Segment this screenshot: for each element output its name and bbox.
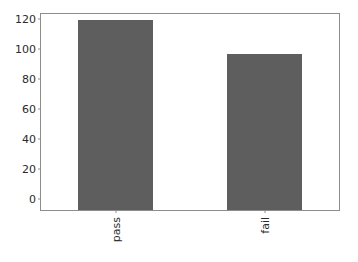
ytick-label: 100: [15, 44, 36, 55]
ytick-mark: [38, 169, 41, 170]
xtick-mark: [264, 210, 265, 213]
ytick-mark: [38, 79, 41, 80]
ytick-mark: [38, 49, 41, 50]
ytick-label: 80: [22, 74, 36, 85]
ytick-mark: [38, 199, 41, 200]
ytick-100: 100: [15, 44, 41, 55]
bar-pass: [78, 20, 153, 210]
ytick-label: 40: [22, 134, 36, 145]
ytick-80: 80: [22, 74, 41, 85]
ytick-label: 60: [22, 104, 36, 115]
bar-fail: [227, 54, 302, 210]
ytick-label: 120: [15, 14, 36, 25]
ytick-120: 120: [15, 14, 41, 25]
ytick-mark: [38, 19, 41, 20]
xtick-fail: fail: [259, 210, 270, 234]
xtick-label: fail: [259, 217, 270, 234]
ytick-20: 20: [22, 164, 41, 175]
ytick-60: 60: [22, 104, 41, 115]
ytick-mark: [38, 109, 41, 110]
plot-area: passfail020406080100120: [41, 14, 339, 210]
ytick-label: 0: [29, 194, 36, 205]
ytick-mark: [38, 139, 41, 140]
ytick-label: 20: [22, 164, 36, 175]
xtick-mark: [115, 210, 116, 213]
plot-axes: passfail020406080100120: [40, 13, 340, 211]
ytick-40: 40: [22, 134, 41, 145]
xtick-pass: pass: [110, 210, 121, 242]
bar-chart-figure: passfail020406080100120: [0, 0, 358, 262]
ytick-0: 0: [29, 194, 41, 205]
xtick-label: pass: [110, 217, 121, 242]
